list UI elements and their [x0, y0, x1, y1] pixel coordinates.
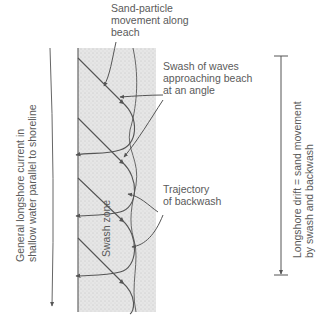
label-swash-waves-line3: at an angle: [163, 84, 252, 96]
label-swash-waves-line2: approaching beach: [163, 72, 252, 84]
label-longshore-current-line1: General longshore current in: [14, 104, 26, 262]
longshore-drift-bracket: [274, 56, 288, 275]
label-trajectory-line2: of backwash: [163, 195, 221, 207]
label-swash-waves-line1: Swash of waves: [163, 60, 252, 72]
label-sand-particle-line3: beach: [111, 26, 189, 38]
label-swash-waves: Swash of waves approaching beach at an a…: [163, 60, 252, 96]
label-sand-particle: Sand-particle movement along beach: [111, 2, 189, 38]
label-sand-particle-line2: movement along: [111, 14, 189, 26]
label-longshore-current: General longshore current in shallow wat…: [14, 104, 38, 262]
label-longshore-drift-line1: Longshore drift = sand movement: [291, 101, 303, 258]
diagram-canvas: [0, 0, 326, 319]
label-longshore-current-line2: shallow water parallel to shoreline: [26, 104, 38, 262]
label-longshore-drift: Longshore drift = sand movement by swash…: [291, 101, 315, 258]
label-longshore-drift-line2: by swash and backwash: [303, 101, 315, 258]
label-swash-zone: Swash zone: [100, 200, 112, 257]
label-sand-particle-line1: Sand-particle: [111, 2, 189, 14]
label-trajectory: Trajectory of backwash: [163, 183, 221, 207]
longshore-current-arrow: [50, 48, 53, 306]
label-trajectory-line1: Trajectory: [163, 183, 221, 195]
